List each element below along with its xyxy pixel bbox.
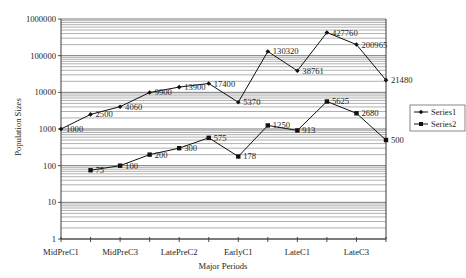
y-tick-label: 100: [43, 161, 56, 171]
diamond-marker-icon: [88, 112, 93, 117]
y-tick-label: 1000000: [26, 14, 56, 24]
diamond-marker-icon: [118, 104, 123, 109]
y-tick-label: 100000: [30, 51, 56, 61]
square-marker-icon: [207, 136, 211, 140]
x-tick-label: EarlyC1: [224, 247, 253, 257]
legend-label-series1: Series1: [431, 107, 456, 117]
data-label: 1000: [66, 124, 83, 134]
axes: 1101001000100001000001000000MidPreC1MidP…: [26, 14, 386, 257]
data-label: 913: [302, 125, 315, 135]
x-tick-label: MidPreC3: [102, 247, 138, 257]
data-label: 130320: [273, 46, 299, 56]
data-label: 300: [184, 143, 197, 153]
square-marker-icon: [354, 111, 358, 115]
data-label: 100: [125, 161, 138, 171]
gridlines: [61, 19, 386, 239]
square-marker-icon: [419, 122, 423, 126]
square-marker-icon: [295, 128, 299, 132]
y-tick-label: 1: [52, 234, 56, 244]
data-label: 575: [214, 133, 227, 143]
y-tick-label: 1000: [39, 124, 56, 134]
data-label: 13900: [184, 82, 205, 92]
diamond-marker-icon: [177, 85, 182, 90]
legend-label-series2: Series2: [431, 119, 456, 129]
data-label: 500: [391, 135, 404, 145]
line-chart: 1101001000100001000001000000MidPreC1MidP…: [0, 0, 466, 278]
data-label: 9900: [155, 87, 172, 97]
data-label: 5625: [332, 96, 349, 106]
data-label: 75: [96, 165, 105, 175]
data-label: 2500: [96, 109, 113, 119]
square-marker-icon: [177, 146, 181, 150]
data-label: 38761: [302, 66, 323, 76]
x-tick-label: LatePreC2: [161, 247, 198, 257]
data-label: 200: [155, 150, 168, 160]
data-label: 4060: [125, 102, 142, 112]
x-axis-title: Major Periods: [199, 261, 249, 271]
data-label: 200965: [361, 40, 387, 50]
data-label: 178: [243, 151, 256, 161]
square-marker-icon: [266, 123, 270, 127]
square-marker-icon: [147, 152, 151, 156]
data-label: 1250: [273, 120, 290, 130]
square-marker-icon: [88, 168, 92, 172]
y-tick-label: 10000: [35, 87, 56, 97]
data-label: 21480: [391, 75, 412, 85]
square-marker-icon: [236, 154, 240, 158]
x-tick-label: MidPreC1: [43, 247, 79, 257]
square-marker-icon: [325, 99, 329, 103]
y-tick-label: 10: [47, 197, 56, 207]
square-marker-icon: [384, 138, 388, 142]
x-tick-label: LateC1: [285, 247, 310, 257]
data-label: 5370: [243, 97, 260, 107]
data-label: 2680: [361, 108, 378, 118]
data-label: 17400: [214, 79, 235, 89]
series-layer: 1000250040609900139001740053701303203876…: [59, 28, 413, 176]
data-label: 427760: [332, 28, 358, 38]
y-axis-title: Population Sizes: [13, 98, 23, 156]
x-tick-label: LateC3: [344, 247, 369, 257]
legend: Series1 Series2: [410, 105, 465, 131]
square-marker-icon: [118, 163, 122, 167]
